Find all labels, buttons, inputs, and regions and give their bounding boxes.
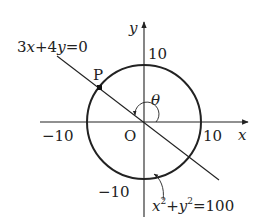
point-p-label: P (93, 66, 103, 84)
origin-label: O (124, 127, 136, 145)
coordinate-diagram: 3x+4y=0 P y x O θ 10 −10 10 −10 x2+y2=10… (0, 0, 276, 217)
circle-equation-label: x2+y2=100 (152, 196, 234, 215)
line-equation-label: 3x+4y=0 (17, 38, 88, 56)
point-p (97, 85, 102, 90)
tick-x-negative: −10 (42, 127, 74, 145)
y-axis-label: y (128, 19, 138, 37)
x-axis-label: x (238, 126, 247, 144)
theta-label: θ (151, 91, 160, 109)
tick-y-negative: −10 (98, 183, 130, 201)
tick-y-positive: 10 (148, 45, 167, 63)
line-3x-4y (57, 56, 219, 180)
tick-x-positive: 10 (203, 127, 222, 145)
